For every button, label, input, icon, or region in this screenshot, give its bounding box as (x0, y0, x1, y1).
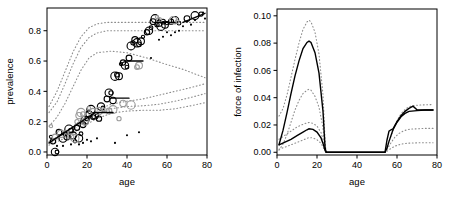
panel-force-of-infection: 0204060800.000.020.040.060.080.10ageforc… (230, 0, 460, 202)
y-tick-label: 0.02 (253, 120, 271, 130)
x-tick-label: 0 (274, 160, 279, 170)
data-point-circle (126, 55, 132, 61)
credible-band-curve (49, 31, 205, 113)
data-point-small (86, 139, 88, 141)
y-tick-label: 0.06 (253, 66, 271, 76)
data-point-small (56, 145, 58, 147)
data-point-small (126, 134, 128, 136)
x-tick-label: 20 (82, 160, 92, 170)
x-axis-title: age (119, 176, 135, 187)
prevalence-data-points (49, 12, 206, 156)
y-tick-label: 0.10 (253, 11, 271, 21)
data-point-small (162, 36, 164, 38)
prevalence-fit-lines (49, 13, 205, 143)
data-point-circle (87, 106, 90, 109)
foi-axes (274, 9, 438, 159)
x-tick-label: 40 (122, 160, 132, 170)
data-point-small (62, 145, 64, 147)
foi-plot-svg: 0204060800.000.020.040.060.080.10ageforc… (230, 0, 460, 202)
data-point-small (190, 24, 192, 26)
data-point-small (182, 25, 184, 27)
data-point-small (90, 140, 92, 142)
x-tick-label: 80 (432, 160, 442, 170)
y-axis-title: force of infection (232, 47, 243, 117)
credible-band-curve (49, 22, 205, 106)
data-point-small (204, 18, 206, 20)
y-axis-title: prevalence (4, 58, 15, 104)
x-axis-title: age (349, 176, 365, 187)
data-point-circle (117, 117, 121, 121)
data-point-small (96, 137, 98, 139)
data-point-small (78, 143, 80, 145)
data-point-circle (120, 100, 126, 106)
x-tick-label: 60 (392, 160, 402, 170)
data-point-small (178, 30, 180, 32)
figure-two-panel-epidemiology: 0204060800.00.20.40.60.8ageprevalence 02… (0, 0, 460, 202)
x-tick-label: 60 (162, 160, 172, 170)
foi-axis-labels: 0204060800.000.020.040.060.080.10ageforc… (232, 11, 442, 187)
fitted-curve-segment (183, 13, 205, 22)
data-point-small (166, 31, 168, 33)
data-point-circle (49, 125, 52, 128)
data-point-circle (141, 35, 144, 38)
data-point-small (138, 131, 140, 133)
data-point-small (70, 143, 72, 145)
y-tick-label: 0.8 (28, 26, 41, 36)
data-point-small (170, 34, 172, 36)
y-tick-label: 0.0 (28, 147, 41, 157)
y-tick-label: 0.6 (28, 56, 41, 66)
prevalence-plot-svg: 0204060800.00.20.40.60.8ageprevalence (0, 0, 230, 202)
credible-band-curve (279, 89, 326, 152)
credible-band-curve (279, 138, 327, 153)
foi-mean-curve (279, 106, 433, 152)
foi-mean-curve (279, 41, 433, 152)
y-tick-label: 0.2 (28, 117, 41, 127)
prevalence-axis-labels: 0204060800.00.20.40.60.8ageprevalence (4, 26, 212, 187)
x-tick-label: 40 (352, 160, 362, 170)
y-tick-label: 0.04 (253, 93, 271, 103)
panel-prevalence: 0204060800.00.20.40.60.8ageprevalence (0, 0, 230, 202)
data-point-small (150, 57, 152, 59)
x-tick-label: 20 (312, 160, 322, 170)
data-point-small (158, 39, 160, 41)
data-point-small (174, 31, 176, 33)
x-tick-label: 80 (202, 160, 212, 170)
credible-band-curve (387, 143, 433, 151)
data-point-small (82, 142, 84, 144)
x-tick-label: 0 (44, 160, 49, 170)
foi-mean-lines (279, 41, 433, 152)
credible-band-curve (387, 128, 433, 149)
y-tick-label: 0.4 (28, 87, 41, 97)
y-tick-label: 0.08 (253, 38, 271, 48)
y-tick-label: 0.00 (253, 147, 271, 157)
data-point-small (194, 19, 196, 21)
data-point-circle (127, 101, 135, 109)
data-point-small (114, 142, 116, 144)
